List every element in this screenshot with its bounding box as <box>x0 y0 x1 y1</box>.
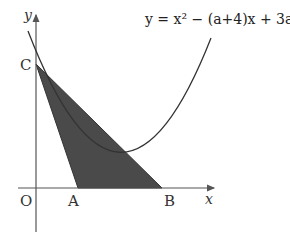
parabola-curve <box>28 31 211 152</box>
y-axis-label: y <box>23 7 33 23</box>
point-a-label: A <box>67 192 79 210</box>
shaded-triangle-abc <box>36 64 162 188</box>
point-c-label: C <box>20 56 31 74</box>
point-b-label: B <box>164 192 175 210</box>
diagram-canvas: y x O A B C y = x² − (a+4)x + 3a + 3 <box>0 0 290 240</box>
origin-label: O <box>20 192 32 210</box>
x-axis-label: x <box>205 191 213 207</box>
equation-label: y = x² − (a+4)x + 3a + 3 <box>144 11 290 27</box>
